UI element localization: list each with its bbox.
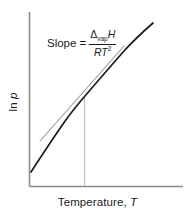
slope-annotation-equals: = — [79, 37, 86, 49]
x-axis-label-prefix: Temperature, — [58, 196, 130, 208]
x-axis-label: Temperature, T — [0, 196, 195, 208]
tangent-line — [40, 46, 124, 141]
y-axis-label-variable: p — [7, 93, 19, 100]
slope-fraction-numerator: ΔvapH — [89, 29, 116, 44]
vapour-pressure-figure: ln p Temperature, T Slope = ΔvapH RT2 — [0, 0, 195, 217]
slope-annotation: Slope = ΔvapH RT2 — [47, 29, 116, 57]
y-axis-label: ln p — [2, 72, 24, 132]
slope-fraction: ΔvapH RT2 — [89, 29, 116, 57]
slope-annotation-label: Slope — [47, 37, 76, 49]
y-axis-label-prefix: ln — [7, 99, 19, 111]
slope-fraction-denominator: RT2 — [93, 45, 112, 57]
square-exponent: 2 — [108, 45, 112, 52]
x-axis-label-variable: T — [130, 196, 137, 208]
vap-subscript: vap — [97, 35, 107, 42]
enthalpy-symbol: H — [108, 28, 116, 40]
